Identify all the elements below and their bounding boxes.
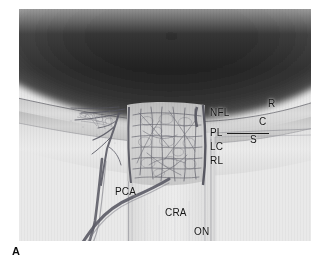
panel-letter: A: [12, 246, 20, 257]
micrograph-plate: NFL PL LC RL R C S PCA CRA ON: [19, 9, 311, 241]
label-pca: PCA: [115, 187, 136, 197]
label-rl: RL: [210, 156, 223, 166]
label-nfl: NFL: [210, 108, 230, 118]
figure-panel: NFL PL LC RL R C S PCA CRA ON A: [0, 0, 330, 273]
label-cra: CRA: [165, 208, 187, 218]
label-pl: PL: [210, 128, 223, 138]
label-r: R: [268, 99, 275, 109]
label-pl-leader-line: [227, 133, 269, 134]
label-c: C: [259, 117, 266, 127]
label-lc: LC: [210, 142, 223, 152]
label-s: S: [250, 135, 257, 145]
label-on: ON: [194, 227, 209, 237]
